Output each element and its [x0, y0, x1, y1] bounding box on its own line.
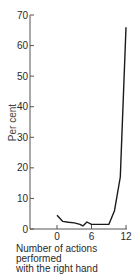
data-line [57, 27, 126, 226]
y-axis-ticks: 010203040506070 [17, 10, 34, 235]
x-axis-ticks: 0612 [54, 225, 132, 242]
y-tick-label: 0 [22, 224, 28, 235]
chart-container: 010203040506070 0612 Per cent Number of … [0, 0, 140, 275]
x-axis-label-line-2: with the right hand [16, 264, 140, 274]
line-chart: 010203040506070 0612 [0, 0, 140, 275]
axes [30, 15, 127, 229]
x-axis-label-line-1: Number of actions performed [16, 244, 140, 264]
y-axis-label: Per cent [7, 103, 18, 143]
x-tick-label: 6 [89, 231, 95, 242]
y-tick-label: 20 [17, 162, 29, 173]
x-axis-label: Number of actions performed with the rig… [16, 244, 140, 274]
y-tick-label: 30 [17, 132, 29, 143]
y-tick-label: 40 [17, 101, 29, 112]
x-tick-label: 0 [54, 231, 60, 242]
y-tick-label: 50 [17, 71, 29, 82]
y-tick-label: 10 [17, 193, 29, 204]
x-tick-label: 12 [120, 231, 132, 242]
y-tick-label: 60 [17, 40, 29, 51]
y-tick-label: 70 [17, 10, 29, 21]
